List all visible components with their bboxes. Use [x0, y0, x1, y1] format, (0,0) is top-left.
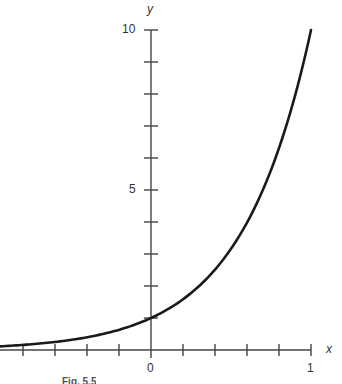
x-axis-label: x	[326, 342, 332, 356]
x-tick-label-0: 0	[147, 361, 154, 375]
y-axis-label: y	[147, 2, 153, 16]
axes	[0, 30, 311, 358]
y-tick-label-10: 10	[122, 22, 135, 36]
y-tick-label-5: 5	[129, 182, 136, 196]
curve-10-pow-x	[1, 30, 311, 346]
exponential-chart	[0, 0, 342, 384]
x-tick-label-1: 1	[307, 361, 314, 375]
figure-caption: Fig. 5.5	[62, 377, 96, 384]
